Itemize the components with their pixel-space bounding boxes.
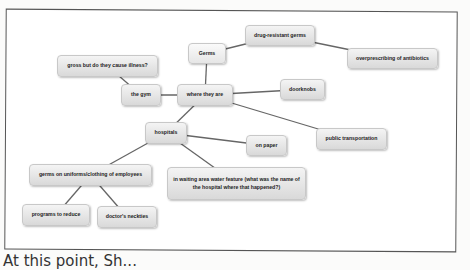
node-uniforms[interactable]: germs on uniforms/clothing of employees — [29, 164, 152, 186]
node-germs[interactable]: Germs — [188, 43, 226, 64]
node-public[interactable]: public transportation — [316, 128, 387, 150]
caption-text: At this point, Sh... — [3, 252, 137, 270]
node-hosp[interactable]: hospitals — [145, 122, 187, 144]
node-gym[interactable]: the gym — [121, 84, 161, 106]
node-programs[interactable]: programs to reduce — [22, 204, 90, 226]
node-gross[interactable]: gross but do they cause illness? — [57, 55, 158, 77]
node-door[interactable]: doorknobs — [280, 79, 325, 100]
node-drug[interactable]: drug-resistant germs — [245, 25, 315, 46]
node-paper[interactable]: on paper — [246, 135, 287, 156]
node-where[interactable]: where they are — [177, 84, 233, 106]
node-waiting[interactable]: in waiting area water feature (what was … — [167, 167, 306, 200]
node-neckties[interactable]: doctor's neckties — [97, 206, 157, 228]
node-overpres[interactable]: overprescribing of antibiotics — [347, 48, 438, 69]
